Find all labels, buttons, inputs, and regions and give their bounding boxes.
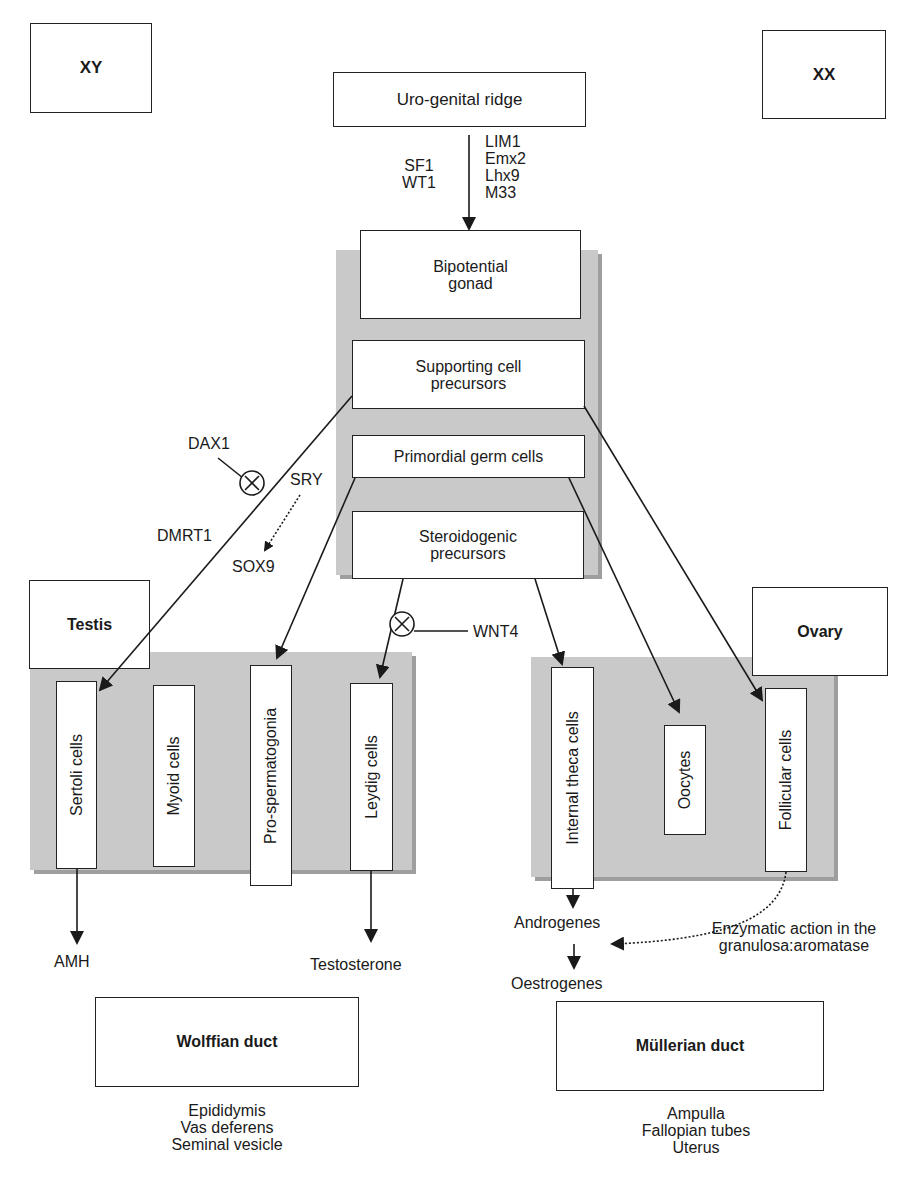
arrow-germ-to-oocytes <box>569 478 679 712</box>
dax1-inhibit-line <box>218 458 243 478</box>
arrow-supporting-to-follicular <box>584 406 762 700</box>
arrow-sry-to-sox9 <box>265 495 300 550</box>
arrow-germ-to-prospermatogonia <box>277 478 355 658</box>
arrow-steroidogenic-to-theca <box>535 579 562 664</box>
connector-layer <box>0 0 918 1188</box>
arrow-supporting-to-sertoli <box>100 396 352 690</box>
arrow-enzymatic-action <box>612 872 786 944</box>
